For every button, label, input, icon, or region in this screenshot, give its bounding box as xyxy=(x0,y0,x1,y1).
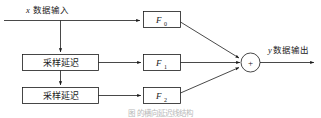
delay-block-2: 采样延迟 xyxy=(23,88,99,104)
filter-block-0-rect xyxy=(144,12,181,28)
output-text-label: 数据输出 xyxy=(273,45,309,55)
delay-block-1-label: 采样延迟 xyxy=(43,57,79,68)
filter-block-1: F 1 xyxy=(144,55,181,71)
input-text-label: 数据输入 xyxy=(33,5,69,15)
filter-block-0: F 0 xyxy=(144,12,181,28)
filter0-to-sum-line xyxy=(181,22,240,58)
filter-block-2-rect xyxy=(144,88,181,104)
filter-block-2-label: F xyxy=(155,91,162,101)
filter-block-2-subscript: 2 xyxy=(164,97,167,103)
filter-block-0-label: F xyxy=(155,15,162,25)
filter-block-2: F 2 xyxy=(144,88,181,104)
filter-block-1-rect xyxy=(144,55,181,71)
plus-icon: + xyxy=(248,58,253,68)
filter-block-0-subscript: 0 xyxy=(164,21,167,27)
output-variable-label: y xyxy=(267,45,272,55)
filter-block-1-subscript: 1 xyxy=(164,64,167,70)
delay-block-2-label: 采样延迟 xyxy=(43,90,79,101)
figure-caption: 图 的横向延迟线结构 xyxy=(128,108,194,118)
filter-block-1-label: F xyxy=(155,58,162,68)
delay-block-1: 采样延迟 xyxy=(23,55,99,71)
filter2-to-sum-line xyxy=(181,68,240,94)
summing-junction: + xyxy=(241,53,260,72)
tapped-delay-line-diagram: x 数据输入 采样延迟 采样延迟 F 0 F 1 xyxy=(0,0,321,118)
input-variable-label: x xyxy=(25,5,30,15)
diagram-canvas: x 数据输入 采样延迟 采样延迟 F 0 F 1 xyxy=(0,0,321,118)
